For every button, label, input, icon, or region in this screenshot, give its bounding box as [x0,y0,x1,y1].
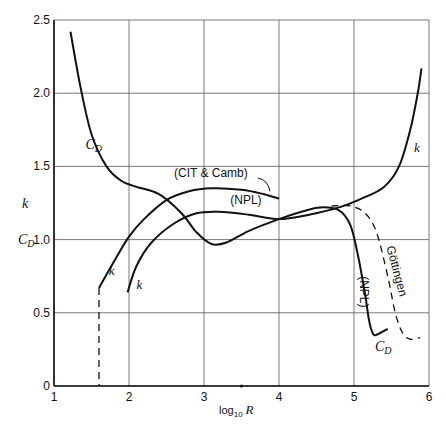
data-curves [71,32,422,386]
cit-camb-leader-line [258,178,270,191]
y-tick-label: 2.0 [33,86,50,100]
y-tick-label: 0 [43,379,50,393]
curve-label: (CIT & Camb) [174,166,248,180]
curve-label: (NPL) [230,193,261,207]
curve-label: CD [86,137,103,154]
y-tick-label: 1.5 [33,159,50,173]
curve-label: (NPL) [357,276,371,307]
curve-k-npl [128,68,422,292]
x-tick-label: 6 [426,390,433,404]
y-axis-label: k CD [18,196,35,249]
x-tick-label: 3 [201,390,208,404]
x-axis-label-text: log10R [219,402,254,419]
curve-c-d [71,32,388,336]
y-axis-label-k: k [22,196,29,211]
x-axis-label: log10R [219,402,254,419]
curve-label: k [137,277,143,292]
curve-c-d-g-ttingen [332,205,421,339]
curve-label: k [414,140,420,155]
x-tick-label: 1 [51,390,58,404]
y-tick-label: 2.5 [33,13,50,27]
y-tick-labels: 00.51.01.52.02.5 [33,13,50,393]
curve-label: Göttingen [383,244,410,298]
drag-coefficient-chart: 123456 00.51.01.52.02.5 CDk(CIT & Camb)(… [0,0,446,427]
curve-label: CD [375,339,392,356]
x-tick-label: 4 [276,390,283,404]
chart-canvas: 123456 00.51.01.52.02.5 CDk(CIT & Camb)(… [0,0,446,427]
y-tick-label: 1.0 [33,233,50,247]
x-tick-label: 5 [351,390,358,404]
x-tick-labels: 123456 [51,390,433,404]
x-tick-label: 2 [126,390,133,404]
x-axis-marker-dot [240,384,243,387]
curve-label: k [109,263,115,278]
y-tick-label: 0.5 [33,306,50,320]
